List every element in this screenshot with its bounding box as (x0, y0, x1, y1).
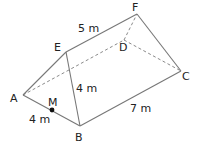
edge-bc (80, 71, 181, 126)
edge-fc (137, 14, 181, 71)
vertex-label-c: C (182, 70, 190, 83)
vertex-label-b: B (75, 131, 83, 144)
edge-dc-hidden (124, 40, 181, 71)
measure-ef: 5 m (78, 22, 99, 35)
measure-am: 4 m (29, 113, 50, 126)
measure-eb: 4 m (76, 82, 97, 95)
vertex-label-e: E (54, 41, 61, 54)
prism-diagram: A B C D E F M 5 m 4 m 4 m 7 m (0, 0, 198, 147)
point-label-m: M (48, 96, 58, 109)
edge-ae (23, 52, 66, 95)
vertex-label-f: F (132, 1, 138, 14)
vertex-label-a: A (10, 92, 18, 105)
prism-figure: A B C D E F M 5 m 4 m 4 m 7 m (0, 0, 198, 147)
vertex-label-d: D (119, 41, 127, 54)
measure-bc: 7 m (130, 102, 151, 115)
